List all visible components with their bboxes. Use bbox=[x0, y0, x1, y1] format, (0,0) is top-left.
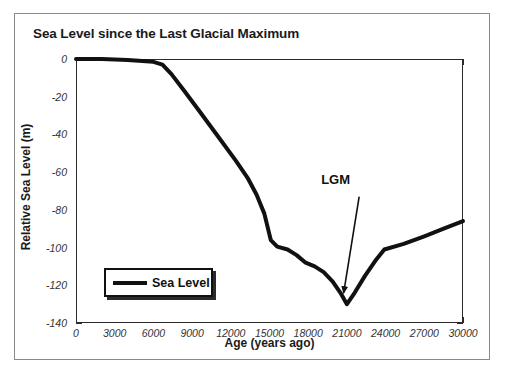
annotation-label-lgm: LGM bbox=[321, 172, 350, 187]
tick-y-major bbox=[76, 323, 82, 324]
x-tick-label: 0 bbox=[73, 327, 79, 339]
y-tick-label: -40 bbox=[52, 128, 67, 140]
annotation-arrow bbox=[344, 197, 359, 293]
y-tick-label: -80 bbox=[52, 204, 67, 216]
x-tick-label: 9000 bbox=[180, 327, 203, 339]
legend-swatch-sea-level bbox=[113, 281, 147, 285]
x-tick-label: 24000 bbox=[371, 327, 400, 339]
y-tick-label: 0 bbox=[61, 53, 67, 65]
tick-x-major bbox=[463, 317, 464, 323]
legend-label-sea-level: Sea Level bbox=[152, 276, 210, 290]
chart-legend[interactable]: Sea Level bbox=[104, 268, 213, 297]
x-tick-label: 18000 bbox=[294, 327, 323, 339]
x-tick-label: 21000 bbox=[332, 327, 361, 339]
chart-figure: Sea Level since the Last Glacial Maximum… bbox=[14, 13, 490, 360]
tick-y-major bbox=[457, 323, 463, 324]
x-tick-label: 15000 bbox=[255, 327, 284, 339]
page-title: Sea Level since the Last Glacial Maximum bbox=[33, 26, 299, 41]
y-tick-label: -20 bbox=[52, 91, 67, 103]
x-tick-label: 27000 bbox=[410, 327, 439, 339]
y-axis-title: Relative Sea Level (m) bbox=[19, 123, 33, 250]
y-tick-label: -120 bbox=[46, 279, 67, 291]
x-tick-label: 3000 bbox=[103, 327, 126, 339]
plot-area: 0300060009000120001500018000210002400027… bbox=[76, 59, 463, 323]
x-tick-label: 30000 bbox=[448, 327, 477, 339]
y-tick-label: -140 bbox=[46, 317, 67, 329]
y-tick-label: -60 bbox=[52, 166, 67, 178]
tick-x-major bbox=[463, 59, 464, 65]
y-tick-label: -100 bbox=[46, 242, 67, 254]
x-tick-label: 12000 bbox=[216, 327, 245, 339]
x-tick-label: 6000 bbox=[142, 327, 165, 339]
